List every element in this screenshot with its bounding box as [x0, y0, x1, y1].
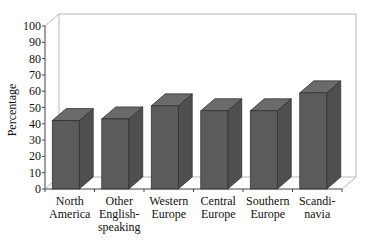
- category-label: WesternEurope: [149, 194, 188, 221]
- y-axis-title: Percentage: [5, 84, 19, 137]
- bar: [250, 99, 291, 189]
- bar: [102, 107, 143, 189]
- bars: [52, 81, 341, 189]
- y-tick-label: 10: [29, 166, 41, 180]
- category-label: OtherEnglish-speaking: [98, 194, 141, 234]
- bar: [151, 94, 192, 189]
- y-tick-label: 70: [29, 68, 41, 82]
- category-label: NorthAmerica: [49, 194, 91, 221]
- category-labels: NorthAmericaOtherEnglish-speakingWestern…: [49, 194, 335, 234]
- y-tick-label: 20: [29, 149, 41, 163]
- y-tick-label: 80: [29, 52, 41, 66]
- y-tick-label: 30: [29, 133, 41, 147]
- bar: [201, 99, 242, 189]
- bar-chart: 0102030405060708090100 NorthAmericaOther…: [0, 0, 367, 240]
- y-tick-label: 100: [23, 19, 41, 33]
- category-label: CentralEurope: [201, 194, 237, 221]
- bar: [52, 109, 93, 189]
- y-tick-label: 90: [29, 35, 41, 49]
- x-axis: [45, 189, 342, 192]
- bar: [300, 81, 341, 189]
- y-tick-label: 60: [29, 84, 41, 98]
- y-tick-label: 40: [29, 117, 41, 131]
- y-tick-label: 0: [35, 182, 41, 196]
- y-tick-label: 50: [29, 101, 41, 115]
- category-label: SouthernEurope: [246, 194, 289, 221]
- category-label: Scandi-navia: [299, 194, 336, 221]
- y-axis: 0102030405060708090100: [23, 19, 45, 196]
